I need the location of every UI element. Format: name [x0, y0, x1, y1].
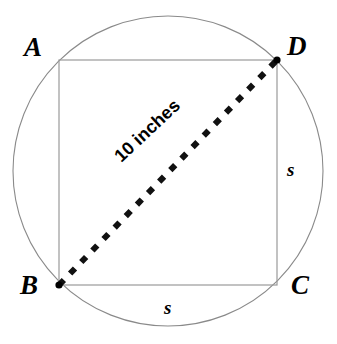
vertex-dot-D [273, 56, 280, 63]
diagonal-BD-line [59, 60, 277, 285]
vertex-label-b: B [20, 272, 38, 299]
geometry-figure: A D B C s s 10 inches [0, 0, 337, 344]
vertex-dot-B [55, 281, 62, 288]
side-label-right: s [287, 160, 294, 179]
vertex-label-d: D [287, 33, 307, 60]
vertex-label-a: A [24, 34, 42, 61]
side-label-bottom: s [164, 298, 171, 317]
vertex-label-c: C [291, 272, 309, 299]
